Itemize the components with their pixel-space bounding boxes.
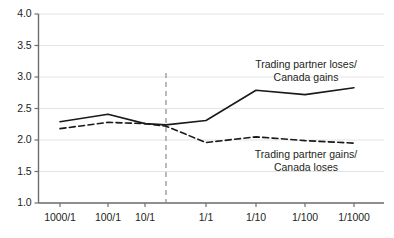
lower-annotation-line-1: Trading partner gains/ [224,148,388,161]
y-tick-label: 4.0 [0,7,32,19]
upper-series-annotation: Trading partner loses/ Canada gains [224,58,388,83]
y-tick-label: 2.0 [0,133,32,145]
y-tick-label: 1.5 [0,165,32,177]
y-tick-label: 3.0 [0,70,32,82]
series-line-1 [60,88,354,125]
upper-annotation-line-2: Canada gains [224,71,388,84]
upper-annotation-line-1: Trading partner loses/ [224,58,388,71]
y-tick-label: 1.0 [0,196,32,208]
x-tick-label: 10/1 [115,211,175,223]
y-tick-label: 3.5 [0,39,32,51]
x-tick-label: 1/1000 [324,211,384,223]
data-series [60,88,354,143]
chart-canvas [0,0,394,238]
lower-series-annotation: Trading partner gains/ Canada loses [224,148,388,173]
y-tick-label: 2.5 [0,102,32,114]
chart-container: 1.01.52.02.53.03.54.0 1000/1100/110/11/1… [0,0,394,238]
gridlines [39,14,385,203]
lower-annotation-line-2: Canada loses [224,161,388,174]
